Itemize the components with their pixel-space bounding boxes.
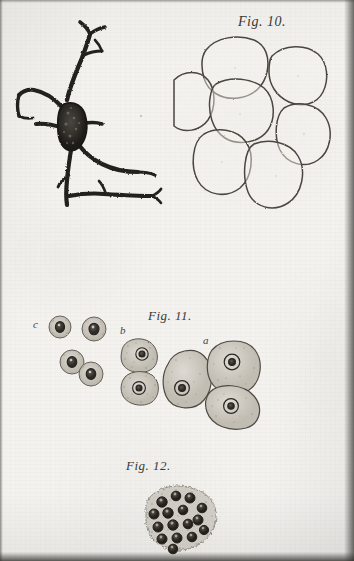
fig-11-group-a-cells [160, 336, 270, 426]
fig-11-caption: Fig. 11. [148, 308, 192, 324]
fig-10-caption: Fig. 10. [238, 14, 286, 30]
fig-12-caption: Fig. 12. [126, 458, 171, 474]
histology-plate: Fig. 10. [0, 0, 354, 561]
scan-edge-left [0, 0, 3, 561]
multipolar-nerve-cell [10, 12, 180, 212]
fig-11-label-c: c [33, 318, 38, 330]
scan-edge-right [344, 0, 354, 561]
polygonal-cell-group [180, 28, 345, 213]
fig-11-label-a: a [203, 334, 209, 346]
scan-edge-top [0, 0, 354, 3]
dense-cell-cluster [128, 480, 233, 558]
fig-11-label-b: b [120, 324, 126, 336]
